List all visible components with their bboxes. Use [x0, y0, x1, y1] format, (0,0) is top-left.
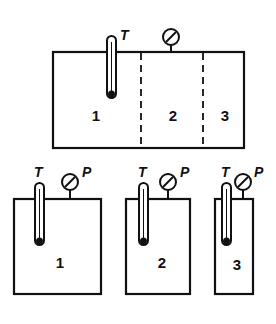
- top-vessel: T 1 2 3: [53, 27, 244, 148]
- gauge-label: P: [180, 164, 190, 180]
- thermometer-label: T: [138, 164, 148, 180]
- vessel-3-outline: [215, 199, 253, 294]
- vessel-1: T P 1: [14, 164, 101, 294]
- section-1-label: 1: [92, 107, 100, 124]
- section-3-label: 3: [221, 107, 229, 124]
- thermometer-label: T: [120, 27, 130, 43]
- gauge-label: P: [82, 164, 92, 180]
- top-vessel-outline: [53, 52, 244, 148]
- vessel-number: 1: [56, 254, 64, 271]
- vessel-2-outline: [126, 199, 190, 294]
- vessel-3: T P 3: [215, 164, 264, 294]
- thermometer-label: T: [34, 164, 44, 180]
- thermometer-icon: [139, 183, 148, 245]
- thermometer-label: T: [221, 164, 231, 180]
- pressure-gauge-icon: [235, 174, 251, 199]
- pressure-gauge-icon: [160, 174, 176, 199]
- thermometer-icon: [107, 36, 116, 98]
- gauge-label: P: [254, 164, 264, 180]
- diagram: T 1 2 3 T P 1: [0, 0, 276, 324]
- pressure-gauge-icon: [163, 29, 179, 52]
- vessel-1-outline: [14, 199, 101, 294]
- thermometer-icon: [35, 183, 44, 245]
- vessel-2: T P 2: [126, 164, 190, 294]
- vessel-number: 3: [233, 256, 241, 273]
- thermometer-icon: [222, 183, 231, 245]
- pressure-gauge-icon: [62, 174, 78, 199]
- section-2-label: 2: [169, 107, 177, 124]
- vessel-number: 2: [158, 254, 166, 271]
